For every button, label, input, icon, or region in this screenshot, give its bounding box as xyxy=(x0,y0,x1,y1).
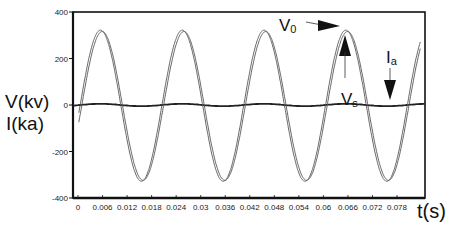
x-tick-label: 0.024 xyxy=(166,203,187,212)
y-axis-ticks: 4002000-200-400 xyxy=(52,8,73,203)
v0-arrow-head-icon xyxy=(318,20,340,31)
x-tick-label: 0.06 xyxy=(316,203,332,212)
x-tick-label: 0.048 xyxy=(264,203,285,212)
y-tick-label: 400 xyxy=(55,8,69,17)
x-tick-label: 0.006 xyxy=(93,203,114,212)
x-tick-label: 0.018 xyxy=(142,203,163,212)
x-tick-label: 0.03 xyxy=(193,203,209,212)
series-ia xyxy=(73,104,425,106)
y-tick-label: -200 xyxy=(52,148,69,157)
y-axis-title-current: I(ka) xyxy=(6,113,44,134)
annotation-ia: Ia xyxy=(384,48,398,100)
ia-arrow-head-icon xyxy=(384,80,396,100)
x-tick-label: 0.036 xyxy=(215,203,236,212)
ia-subscript: a xyxy=(391,55,398,67)
x-tick-label: 0.072 xyxy=(362,203,383,212)
y-tick-label: 200 xyxy=(55,55,69,64)
waveform-chart: 4002000-200-400 00.0060.0120.0180.0240.0… xyxy=(0,0,454,236)
series-layer xyxy=(73,30,425,181)
y-tick-label: -400 xyxy=(52,194,69,203)
vs-subscript: s xyxy=(352,97,358,109)
x-axis-title: t(s) xyxy=(417,200,446,222)
x-tick-label: 0.012 xyxy=(117,203,138,212)
x-tick-label: 0.042 xyxy=(240,203,261,212)
v0-label: V xyxy=(279,16,291,35)
svg-text:Ia: Ia xyxy=(386,48,398,67)
vs-label: V xyxy=(341,90,353,109)
x-tick-label: 0.078 xyxy=(387,203,408,212)
y-tick-label: 0 xyxy=(64,101,69,110)
svg-text:V0: V0 xyxy=(279,16,296,35)
annotation-v0: V0 xyxy=(279,16,340,35)
x-tick-label: 0.054 xyxy=(289,203,310,212)
x-tick-label: 0.066 xyxy=(338,203,359,212)
v0-subscript: 0 xyxy=(290,23,296,35)
x-tick-label: 0 xyxy=(76,203,81,212)
y-axis-title-voltage: V(kv) xyxy=(5,91,49,112)
svg-text:Vs: Vs xyxy=(341,90,358,109)
